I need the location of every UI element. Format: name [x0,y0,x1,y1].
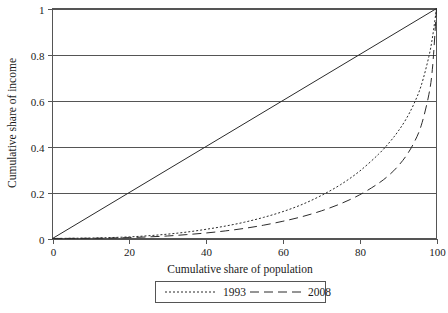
y-tick-label: 0.8 [31,50,45,62]
y-axis-title: Cumulative share of income [6,58,18,188]
y-tick-label: 1 [39,4,45,16]
y-tick-label: 0.6 [31,96,45,108]
x-tick-label: 80 [355,246,367,258]
x-axis-tick-labels: 020406080100 [51,246,447,258]
curve-line-of-equality [53,9,437,239]
legend: 19932008 [156,282,332,303]
legend-label-1993: 1993 [223,286,246,298]
gridlines [53,10,437,240]
y-tick-label: 0.4 [31,142,45,154]
y-axis-ticks [48,10,53,240]
legend-label-2008: 2008 [308,286,331,298]
y-tick-label: 0.2 [31,188,45,200]
x-tick-label: 40 [201,246,213,258]
y-tick-label: 0 [39,234,45,246]
lorenz-curve-figure: 00.20.40.60.81 020406080100 Cumulative s… [0,0,448,313]
x-tick-label: 0 [51,246,57,258]
chart-canvas: 00.20.40.60.81 020406080100 Cumulative s… [0,0,448,313]
x-tick-label: 20 [124,246,136,258]
x-tick-label: 60 [278,246,290,258]
y-axis-tick-labels: 00.20.40.60.81 [31,4,45,246]
x-tick-label: 100 [429,246,446,258]
data-curves [53,9,437,239]
x-axis-title: Cumulative share of population [167,263,313,276]
